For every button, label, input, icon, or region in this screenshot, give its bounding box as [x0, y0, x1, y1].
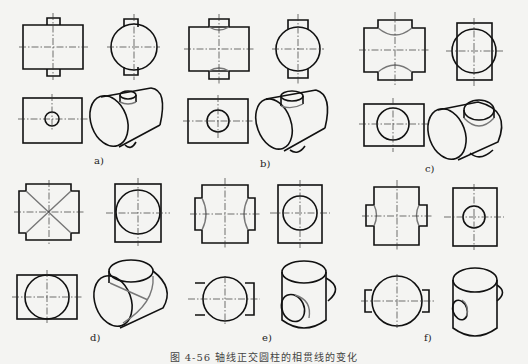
panel-a — [18, 13, 163, 152]
figure-caption: 图 4-56 轴线正交圆柱的相贯线的变化 — [0, 349, 528, 364]
panel-label-a: a) — [94, 155, 104, 166]
panel-b — [183, 14, 328, 154]
panel-d — [12, 178, 170, 332]
panel-label-c: c) — [425, 163, 435, 174]
panel-e — [188, 178, 336, 328]
panel-f — [361, 180, 504, 336]
panel-c — [359, 12, 504, 165]
panel-label-f: f) — [424, 332, 432, 343]
panel-label-e: e) — [262, 332, 272, 343]
panel-label-b: b) — [260, 158, 270, 169]
panel-label-d: d) — [90, 332, 100, 343]
